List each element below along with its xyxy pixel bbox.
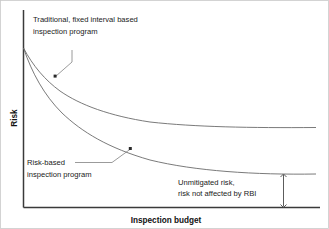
unmitigated-risk-label-line2: risk not affected by RBI [178,189,256,198]
risk-based-label-line1: Risk-based [27,158,65,167]
x-axis-label: Inspection budget [131,216,202,225]
traditional-label-line1: Traditional, fixed interval based [33,15,138,24]
unmitigated-risk-label-line1: Unmitigated risk, [178,178,235,187]
risk-based-leader-line [75,149,131,163]
traditional-leader-line [56,50,73,77]
risk-based-label-line2: inspection program [27,170,92,179]
curve-risk-based-inspection [24,48,317,174]
traditional-label-line2: inspection program [33,27,98,36]
risk-vs-inspection-budget-chart: Traditional, fixed interval based inspec… [0,0,329,229]
risk-based-leader-marker [129,147,132,150]
traditional-leader-marker [54,75,57,78]
y-axis-label: Risk [10,109,19,127]
curve-traditional-inspection [24,48,317,128]
